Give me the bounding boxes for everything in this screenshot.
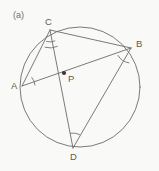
angle-a-arc xyxy=(32,77,35,85)
geometry-figure-panel: (a) ABCDP xyxy=(0,0,159,171)
chord-b-d xyxy=(73,48,131,148)
angle-c-inner-arc xyxy=(47,41,55,42)
chord-c-b xyxy=(50,30,131,48)
point-marker-p xyxy=(62,71,66,75)
circumscribed-circle xyxy=(20,27,140,147)
point-label-a: A xyxy=(11,81,17,91)
angle-d-arc xyxy=(71,133,80,135)
point-label-c: C xyxy=(45,17,52,27)
point-label-p: P xyxy=(68,74,74,84)
angle-c-outer-arc xyxy=(45,46,57,48)
geometry-diagram-svg xyxy=(0,0,159,171)
point-label-d: D xyxy=(70,152,77,162)
point-label-b: B xyxy=(136,39,142,49)
panel-label: (a) xyxy=(13,10,24,20)
point-markers xyxy=(62,71,66,75)
